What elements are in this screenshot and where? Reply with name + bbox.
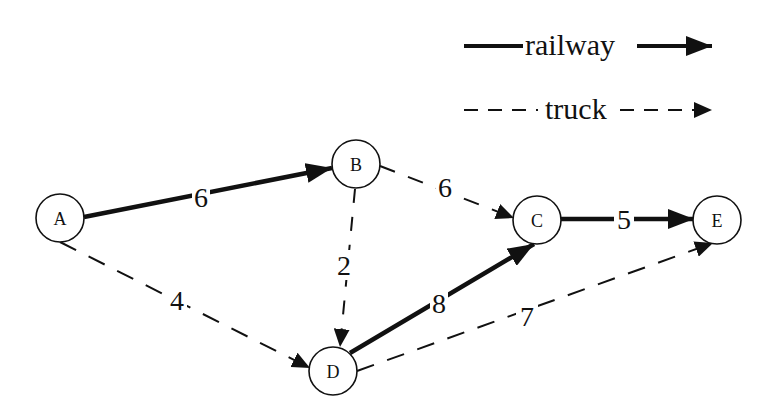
edge-b-c-weight: 6: [438, 172, 452, 203]
node-e: E: [693, 196, 741, 244]
edge-c-e-weight: 5: [617, 204, 631, 235]
legend-railway-label: railway: [525, 28, 615, 61]
node-a: A: [36, 194, 84, 242]
edges: 6 4 6 2 8 5 7: [60, 166, 713, 371]
edge-b-d-weight: 2: [337, 250, 351, 281]
legend: railway truck: [464, 28, 712, 125]
node-d-label: D: [327, 362, 340, 382]
legend-truck: truck: [464, 92, 712, 125]
edge-a-d-weight: 4: [170, 285, 184, 316]
edge-d-c-weight: 8: [432, 288, 446, 319]
nodes: A B C D E: [36, 140, 741, 395]
node-a-label: A: [54, 209, 67, 229]
edge-d-e-weight: 7: [520, 301, 534, 332]
node-b-label: B: [350, 155, 362, 175]
network-diagram: railway truck 6 4 6 2 8 5: [0, 0, 774, 417]
node-c: C: [513, 196, 561, 244]
legend-truck-label: truck: [545, 92, 607, 125]
node-b: B: [332, 140, 380, 188]
node-e-label: E: [712, 211, 723, 231]
node-d: D: [309, 347, 357, 395]
legend-railway: railway: [464, 28, 712, 61]
edge-a-b-weight: 6: [194, 182, 208, 213]
node-c-label: C: [531, 211, 543, 231]
